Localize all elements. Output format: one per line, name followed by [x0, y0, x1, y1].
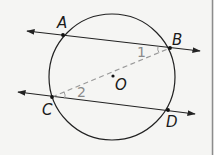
- point-c: [50, 95, 54, 99]
- point-a: [61, 33, 65, 37]
- angle-1-label: 1: [137, 44, 146, 60]
- label-a: A: [56, 14, 67, 32]
- geometry-diagram: A B C D O 1 2: [0, 0, 214, 155]
- label-o: O: [115, 76, 127, 94]
- point-d: [166, 108, 170, 112]
- angle-1-arc: [158, 47, 159, 53]
- angle-2-label: 2: [77, 84, 86, 100]
- label-b: B: [172, 31, 182, 49]
- chord-cb-dashed: [52, 48, 170, 97]
- label-d: D: [166, 113, 178, 131]
- label-c: C: [42, 101, 53, 119]
- diagram-svg: A B C D O 1 2: [0, 0, 214, 155]
